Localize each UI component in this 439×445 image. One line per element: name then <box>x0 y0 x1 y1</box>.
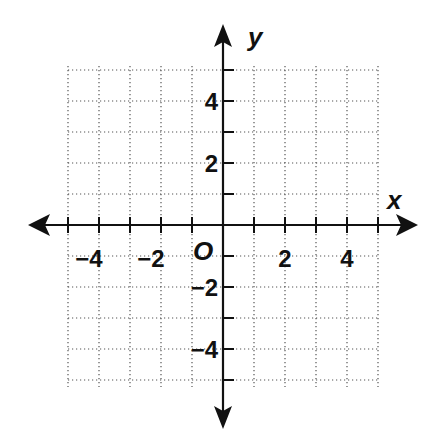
x-tick-label: 2 <box>278 245 291 272</box>
y-axis-label: y <box>246 22 264 52</box>
origin-label: O <box>193 236 213 266</box>
x-tick-label: −2 <box>137 245 164 272</box>
axes <box>28 24 418 429</box>
y-tick-label: 4 <box>205 88 219 115</box>
x-axis-label: x <box>385 185 403 215</box>
y-tick-label: −4 <box>191 336 219 363</box>
x-tick-label: 4 <box>340 245 354 272</box>
y-tick-label: −2 <box>191 274 218 301</box>
coordinate-plane: −4−22442−2−4 x y O <box>0 0 439 445</box>
x-tick-label: −4 <box>75 245 103 272</box>
y-tick-label: 2 <box>205 150 218 177</box>
